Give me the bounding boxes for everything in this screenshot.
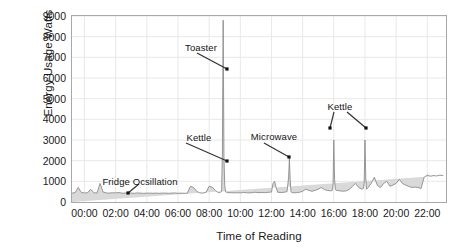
chart-figure: Energy Usage Watts 010002000300040005000…: [0, 0, 472, 252]
annotation-label: Kettle: [187, 132, 212, 143]
annotation-label: Kettle: [328, 101, 353, 112]
x-axis-title: Time of Reading: [71, 230, 447, 242]
annotation-label: Toaster: [185, 42, 217, 53]
annotation-label: Microwave: [251, 131, 297, 142]
x-tick-label: 22:00: [407, 207, 447, 219]
x-axis-tick-labels: 00:0002:0004:0006:0008:0010:0012:0014:00…: [0, 0, 472, 252]
annotation-label: Fridge Ocsillation: [102, 176, 177, 187]
